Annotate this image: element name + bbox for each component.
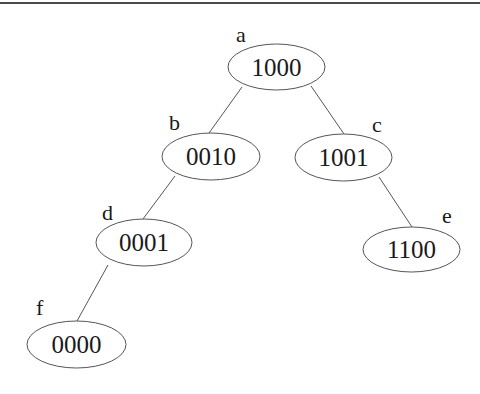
node-value: 0001 <box>119 229 169 256</box>
tree-diagram: 1000a0010b1001c0001d1100e0000f <box>0 0 480 394</box>
edge-a-b <box>209 87 242 133</box>
node-label: f <box>36 295 44 320</box>
tree-node-a: 1000a <box>228 22 325 90</box>
tree-node-d: 0001d <box>96 200 192 266</box>
edge-c-e <box>379 177 412 227</box>
node-value: 0010 <box>186 143 236 170</box>
edge-a-c <box>311 86 344 134</box>
node-label: b <box>169 110 180 135</box>
node-value: 0000 <box>52 331 102 358</box>
tree-node-f: 0000f <box>27 295 126 368</box>
tree-node-e: 1100e <box>363 203 460 272</box>
tree-node-b: 0010b <box>162 110 260 180</box>
node-value: 1100 <box>387 236 436 263</box>
node-label: a <box>236 22 246 47</box>
tree-node-c: 1001c <box>295 112 392 181</box>
nodes-layer: 1000a0010b1001c0001d1100e0000f <box>27 22 460 368</box>
node-value: 1001 <box>319 144 369 171</box>
node-label: d <box>102 200 113 225</box>
node-label: e <box>442 203 452 228</box>
edge-b-d <box>143 176 175 219</box>
edge-d-f <box>77 265 108 321</box>
node-label: c <box>372 112 382 137</box>
edges-layer <box>77 86 412 321</box>
node-value: 1000 <box>252 54 302 81</box>
